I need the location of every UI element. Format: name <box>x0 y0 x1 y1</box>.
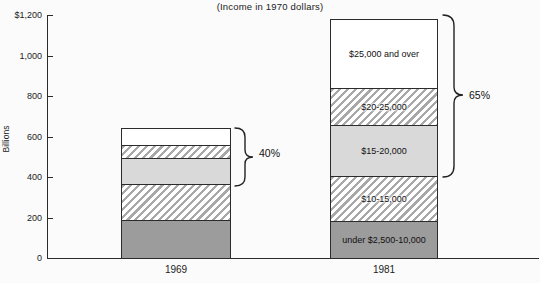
segment-1969-20-25000 <box>122 146 230 159</box>
y-tick-mark <box>48 177 53 178</box>
segment-label-20-25000: $20-25,000 <box>361 102 407 112</box>
x-category-1969: 1969 <box>121 264 231 275</box>
segment-1981-10-15000: $10-15,000 <box>331 177 437 222</box>
segment-label-under-2500-10000: under $2,500-10,000 <box>342 235 426 245</box>
y-tick-mark <box>48 137 53 138</box>
brace-1969-top-share <box>234 126 258 188</box>
y-tick-label-1200: $1,200 <box>2 10 42 21</box>
annotation-40-percent: 40% <box>259 147 280 159</box>
y-tick-label-200: 200 <box>2 213 42 224</box>
segment-1981-15-20000: $15-20,000 <box>331 126 437 177</box>
segment-1981-under-2500-10000: under $2,500-10,000 <box>331 222 437 258</box>
y-tick-label-800: 800 <box>2 91 42 102</box>
segment-1969-10-15000 <box>122 185 230 221</box>
annotation-65-percent: 65% <box>469 89 490 101</box>
segment-1969-15-20000 <box>122 159 230 185</box>
segment-1969-under-2500-10000 <box>122 221 230 258</box>
y-tick-label-1000: 1,000 <box>2 51 42 62</box>
y-tick-label-600: 600 <box>2 132 42 143</box>
y-tick-label-0: 0 <box>2 253 42 264</box>
segment-label-15-20000: $15-20,000 <box>361 146 407 156</box>
chart-subtitle: (Income in 1970 dollars) <box>0 1 540 12</box>
income-distribution-chart: (Income in 1970 dollars) Billions $1,200… <box>0 0 540 283</box>
y-tick-mark <box>48 15 53 16</box>
y-tick-mark <box>48 96 53 97</box>
segment-label-10-15000: $10-15,000 <box>361 194 407 204</box>
x-category-1981: 1981 <box>329 264 439 275</box>
segment-1969-25000-and-over <box>122 129 230 146</box>
segment-1981-20-25000: $20-25,000 <box>331 89 437 126</box>
y-tick-mark <box>48 218 53 219</box>
y-tick-label-400: 400 <box>2 172 42 183</box>
y-tick-mark <box>48 56 53 57</box>
stacked-bar-1981: $25,000 and over $20-25,000 $15-20,000 $… <box>330 19 438 259</box>
stacked-bar-1969 <box>121 128 231 259</box>
segment-label-25000-and-over: $25,000 and over <box>349 49 419 59</box>
segment-1981-25000-and-over: $25,000 and over <box>331 20 437 89</box>
brace-1981-top-share <box>442 13 468 179</box>
